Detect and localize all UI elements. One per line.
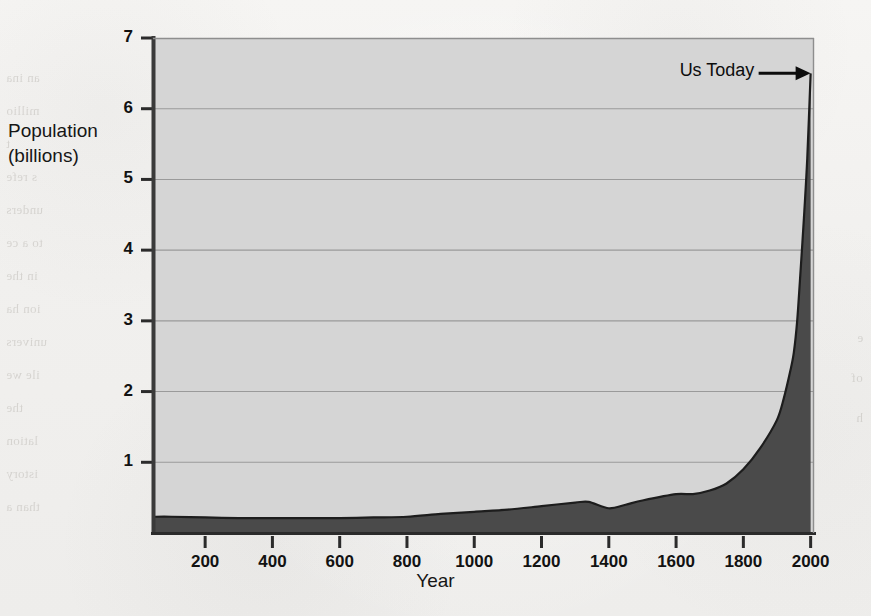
y-tick-label: 7 [81,27,133,47]
y-axis-title-line-1: Population [8,118,98,143]
y-tick-label: 5 [81,168,133,188]
chart-canvas [0,0,871,616]
x-axis-ticks [205,536,810,548]
y-tick-label: 4 [81,239,133,259]
scanned-page: an inamilliots refeundersto a cein theio… [0,0,871,616]
y-axis-title-line-2: (billions) [8,143,98,168]
x-axis-title-text: Year [416,570,454,592]
y-axis-title: Population (billions) [8,118,98,168]
y-axis-ticks [141,38,152,462]
x-tick-label: 2000 [771,552,851,572]
population-growth-chart: Population (billions) Year 1234567 20040… [0,0,871,616]
y-tick-label: 1 [81,451,133,471]
y-tick-label: 2 [81,381,133,401]
x-axis-title: Year [0,570,871,592]
y-tick-label: 3 [81,310,133,330]
us-today-label: Us Today [680,60,755,81]
y-tick-label: 6 [81,98,133,118]
plot-background [153,38,814,533]
